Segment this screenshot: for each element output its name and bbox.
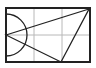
geometry-diagram <box>0 0 96 68</box>
grid-lines <box>6 8 90 62</box>
